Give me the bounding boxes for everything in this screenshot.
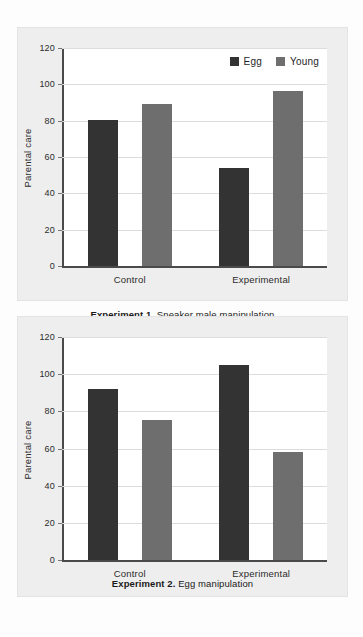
y-tick-label-120: 120 (39, 43, 55, 53)
caption-label: Experiment 2. (112, 578, 176, 589)
y-tick-label-40: 40 (45, 188, 55, 198)
y-tick-label-60: 60 (45, 444, 55, 454)
y-tick-label-100: 100 (39, 79, 55, 89)
y-tick-mark-120 (58, 337, 62, 338)
y-tick-label-120: 120 (39, 332, 55, 342)
figure-page: Parental care 020406080100120 ControlExp… (0, 0, 363, 637)
bar-experimental-egg (219, 365, 249, 560)
bar-experimental-young (273, 91, 303, 266)
legend-swatch-young-icon (276, 57, 285, 66)
bar-control-young (142, 420, 172, 560)
y-tick-label-40: 40 (45, 481, 55, 491)
y-tick-mark-20 (58, 523, 62, 524)
chart-legend: Egg Young (230, 56, 319, 67)
gridline-100 (62, 374, 327, 375)
chart-plot-area-experiment-1: Parental care 020406080100120 ControlExp… (62, 48, 327, 268)
x-category-label-experimental: Experimental (232, 274, 290, 285)
gridline-100 (62, 84, 327, 85)
chart-plot-area-experiment-2: Parental care 020406080100120 ControlExp… (62, 337, 327, 562)
bar-control-egg (88, 389, 118, 560)
figure-panel-experiment-1: Parental care 020406080100120 ControlExp… (17, 27, 348, 301)
caption-text: Egg manipulation (175, 578, 253, 589)
x-axis-line (62, 560, 327, 562)
y-axis-title: Parental care (22, 128, 33, 187)
y-tick-mark-20 (58, 230, 62, 231)
y-tick-mark-60 (58, 449, 62, 450)
legend-label-egg: Egg (244, 56, 262, 67)
bar-control-egg (88, 120, 118, 266)
y-tick-mark-100 (58, 374, 62, 375)
x-axis-line (62, 266, 327, 268)
legend-item-young: Young (276, 56, 319, 67)
y-tick-mark-60 (58, 157, 62, 158)
y-tick-label-80: 80 (45, 116, 55, 126)
x-category-label-control: Control (114, 274, 146, 285)
gridline-120 (62, 337, 327, 338)
y-tick-mark-0 (58, 560, 62, 561)
figure-panel-experiment-2: Parental care 020406080100120 ControlExp… (17, 316, 348, 597)
bar-experimental-egg (219, 168, 249, 266)
y-tick-mark-40 (58, 193, 62, 194)
gridline-120 (62, 48, 327, 49)
y-tick-label-60: 60 (45, 152, 55, 162)
y-tick-mark-120 (58, 48, 62, 49)
y-tick-label-100: 100 (39, 369, 55, 379)
y-tick-mark-100 (58, 84, 62, 85)
y-tick-label-20: 20 (45, 225, 55, 235)
bar-experimental-young (273, 452, 303, 560)
figure-caption-experiment-2: Experiment 2. Egg manipulation (18, 578, 347, 589)
y-tick-label-0: 0 (50, 555, 55, 565)
legend-label-young: Young (290, 56, 319, 67)
y-axis-line (62, 337, 64, 562)
y-tick-mark-40 (58, 486, 62, 487)
y-axis-title: Parental care (22, 420, 33, 479)
y-tick-label-20: 20 (45, 518, 55, 528)
y-tick-mark-80 (58, 411, 62, 412)
y-axis-line (62, 48, 64, 268)
bar-control-young (142, 104, 172, 266)
y-tick-label-80: 80 (45, 406, 55, 416)
legend-item-egg: Egg (230, 56, 262, 67)
legend-swatch-egg-icon (230, 57, 239, 66)
y-tick-label-0: 0 (50, 261, 55, 271)
y-tick-mark-0 (58, 266, 62, 267)
y-tick-mark-80 (58, 121, 62, 122)
